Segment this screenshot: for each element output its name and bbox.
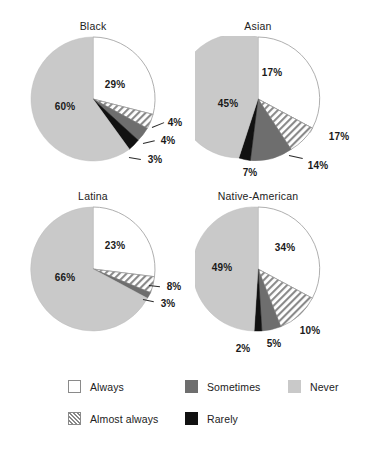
legend-label-never: Never xyxy=(310,381,339,393)
legend-label-almost-always: Almost always xyxy=(90,413,158,425)
pie-label-asian-rarely: 7% xyxy=(243,167,258,178)
pie-label-black-never: 60% xyxy=(55,101,75,112)
pie-label-black-always: 29% xyxy=(105,79,125,90)
pie-title-black: Black xyxy=(80,20,107,32)
pie-label-latina-never: 66% xyxy=(55,272,75,283)
chart-legend: Always Sometimes Never Almost always Rar… xyxy=(0,375,365,435)
pie-svg-latina xyxy=(30,206,156,332)
legend-item-rarely: Rarely xyxy=(185,412,238,425)
legend-item-always: Always xyxy=(68,380,124,393)
pie-chart-asian xyxy=(195,36,321,162)
pie-svg-asian xyxy=(195,36,321,162)
pie-label-native-american-always: 34% xyxy=(275,242,295,253)
pie-label-latina-almost-always: 8% xyxy=(167,281,182,292)
legend-swatch-rarely-icon xyxy=(185,412,198,425)
pie-label-latina-sometimes: 3% xyxy=(161,298,176,309)
pie-title-native-american: Native-American xyxy=(218,190,299,202)
legend-item-almost-always: Almost always xyxy=(68,412,158,425)
legend-swatch-sometimes-icon xyxy=(185,380,198,393)
pie-label-black-rarely: 3% xyxy=(148,154,163,165)
pie-label-black-sometimes: 4% xyxy=(161,135,176,146)
pie-title-asian: Asian xyxy=(244,20,271,32)
pie-title-latina: Latina xyxy=(78,190,108,202)
pie-label-asian-sometimes: 14% xyxy=(308,160,328,171)
legend-swatch-always-icon xyxy=(68,380,81,393)
legend-label-rarely: Rarely xyxy=(207,413,238,425)
pie-label-latina-always: 23% xyxy=(105,240,125,251)
legend-swatch-never-icon xyxy=(288,380,301,393)
legend-item-never: Never xyxy=(288,380,339,393)
legend-label-sometimes: Sometimes xyxy=(207,381,260,393)
pie-svg-black xyxy=(30,36,156,162)
pie-label-asian-almost-always: 17% xyxy=(329,131,349,142)
pie-label-native-american-rarely: 2% xyxy=(236,343,251,354)
legend-label-always: Always xyxy=(90,381,124,393)
pie-label-black-almost-always: 4% xyxy=(168,117,183,128)
pie-chart-black xyxy=(30,36,156,162)
legend-item-sometimes: Sometimes xyxy=(185,380,260,393)
pie-chart-figure: Black 29% 60% 4% 4% 3% Asian xyxy=(0,0,365,450)
pie-chart-latina xyxy=(30,206,156,332)
pie-label-asian-never: 45% xyxy=(218,98,238,109)
pie-label-native-american-never: 49% xyxy=(212,262,232,273)
legend-swatch-almost-always-icon xyxy=(68,412,81,425)
pie-label-native-american-sometimes: 5% xyxy=(267,338,282,349)
pie-label-native-american-almost-always: 10% xyxy=(300,325,320,336)
pie-label-asian-always: 17% xyxy=(262,67,282,78)
